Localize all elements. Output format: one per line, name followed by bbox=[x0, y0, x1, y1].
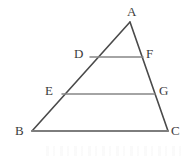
triangle-diagram-svg bbox=[0, 0, 193, 160]
side-AB-line bbox=[32, 22, 130, 131]
vertex-label-D: D bbox=[74, 47, 83, 60]
vertex-label-B: B bbox=[15, 124, 24, 137]
vertex-label-E: E bbox=[45, 84, 53, 97]
vertex-label-A: A bbox=[127, 5, 136, 18]
side-AC-line bbox=[130, 22, 168, 131]
vertex-label-F: F bbox=[146, 47, 153, 60]
faint-watermark-strip bbox=[46, 146, 186, 156]
vertex-label-G: G bbox=[159, 84, 168, 97]
vertex-label-C: C bbox=[171, 124, 180, 137]
geometry-figure: A B C D F E G bbox=[0, 0, 193, 160]
